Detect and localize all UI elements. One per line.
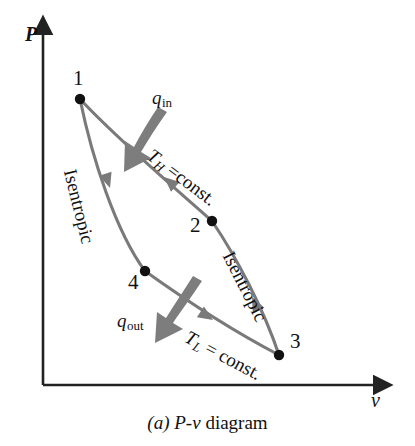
q-out-label: qout [117,311,144,332]
state-label-4: 4 [128,272,139,293]
figure-caption: (a) P-v diagram [0,412,415,434]
pv-diagram-canvas [0,0,415,446]
q-out-subscript: out [127,318,144,333]
state-point-3 [274,350,284,360]
caption-prefix: (a) [147,412,169,433]
state-label-2: 2 [190,215,201,236]
state-point-4 [140,266,150,276]
x-axis-label: v [371,390,380,410]
state-point-2 [207,216,217,226]
q-in-subscript: in [162,95,172,110]
state-label-3: 3 [290,331,301,352]
state-point-1 [75,94,85,104]
q-in-symbol: q [152,87,162,108]
axes-group [43,30,378,385]
q-in-label: qin [152,88,172,109]
process-curve-4-1 [80,99,145,271]
caption-main: P-v [174,412,200,433]
state-label-1: 1 [73,68,84,89]
pv-diagram-figure: P v 1 2 3 4 qin qout TH =const. TL = con… [0,0,415,446]
q-out-symbol: q [117,310,127,331]
y-axis-label: P [25,24,37,44]
caption-suffix: diagram [205,412,267,433]
